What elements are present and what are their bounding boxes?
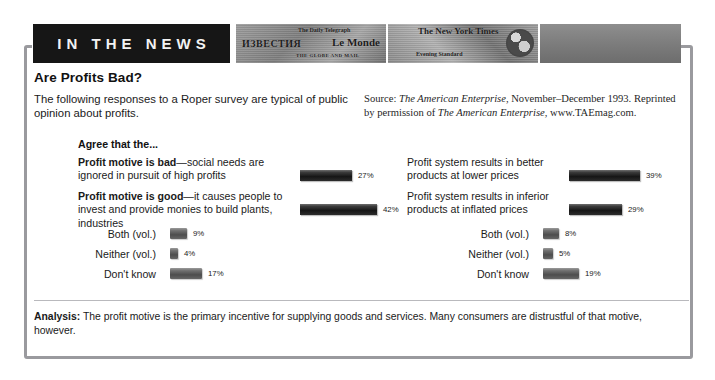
chart-bar-value: 17% [208, 269, 224, 278]
chart-bar [300, 170, 352, 181]
globe-icon [506, 29, 534, 57]
chart-row: Both (vol.) 8% [451, 226, 715, 242]
chart-bar [170, 268, 202, 279]
newspaper-collage-image-b: The New York Times Evening Standard [388, 24, 538, 63]
chart-bar [543, 248, 553, 259]
chart-row: Profit motive is good—it causes people t… [78, 190, 408, 224]
chart-row: Don't know 17% [78, 266, 408, 282]
chart-bar-value: 5% [559, 249, 570, 258]
source-prefix: Source: [364, 93, 399, 104]
chart-row-label: Profit system results in inferior produc… [407, 190, 567, 217]
newspaper-collage-image-a: ИЗВЕСТИЯ The Daily Telegraph Le Monde TH… [236, 24, 386, 63]
chart-bar-value: 29% [628, 205, 644, 214]
analysis-paragraph: Analysis: The profit motive is the prima… [34, 310, 686, 337]
analysis-divider [34, 300, 689, 301]
source-publication-2: The American Enterprise [438, 107, 545, 118]
chart-row: Neither (vol.) 4% [78, 246, 408, 262]
chart-bar-group: 29% [569, 204, 644, 215]
chart-other-responses-left: Both (vol.) 9% Neither (vol.) 4% Don't k… [78, 226, 408, 286]
chart-bar [543, 268, 579, 279]
chart-row-label: Both (vol.) [451, 228, 543, 240]
chart-bar-group: 27% [300, 170, 374, 181]
chart-row: Profit system results in inferior produc… [407, 190, 692, 224]
source-citation: Source: The American Enterprise, Novembe… [364, 92, 680, 120]
chart-row: Both (vol.) 9% [78, 226, 408, 242]
chart-bar-value: 8% [565, 229, 576, 238]
chart-bar-value: 42% [383, 205, 399, 214]
chart-bar-value: 19% [585, 269, 601, 278]
chart-row-label: Don't know [451, 268, 543, 280]
analysis-text: The profit motive is the primary incenti… [34, 311, 642, 336]
chart-bar-value: 39% [646, 171, 662, 180]
analysis-label: Analysis: [34, 311, 80, 322]
chart-bar [170, 228, 187, 239]
chart-row: Neither (vol.) 5% [451, 246, 715, 262]
chart-row-label-rest: Profit system results in inferior produc… [407, 190, 549, 216]
chart-bar [300, 204, 377, 215]
banner-title: IN THE NEWS [52, 35, 210, 52]
chart-bar [569, 204, 622, 215]
masthead-daily-telegraph: The Daily Telegraph [298, 27, 350, 33]
chart-row: Profit system results in better products… [407, 156, 692, 190]
masthead-new-york-times: The New York Times [418, 26, 499, 36]
chart-other-responses-right: Both (vol.) 8% Neither (vol.) 5% Don't k… [451, 226, 715, 286]
article-content: Are Profits Bad? The following responses… [34, 70, 690, 268]
banner-row: IN THE NEWS ИЗВЕСТИЯ The Daily Telegraph… [33, 24, 681, 63]
banner-gray-block [540, 24, 681, 63]
survey-chart: Agree that the... Profit motive is bad—s… [34, 138, 690, 268]
masthead-evening-standard: Evening Standard [416, 51, 463, 57]
chart-row-label-bold: Profit motive is bad [78, 156, 176, 168]
in-the-news-banner: IN THE NEWS [33, 24, 230, 63]
chart-row-label: Profit motive is good—it causes people t… [78, 190, 300, 231]
source-publication-1: The American Enterprise [399, 93, 506, 104]
chart-row-label-bold: Profit motive is good [78, 190, 183, 202]
chart-row-label: Profit system results in better products… [407, 156, 567, 183]
chart-bar [170, 248, 178, 259]
masthead-izvestia: ИЗВЕСТИЯ [242, 38, 301, 49]
chart-bar-group: 39% [569, 170, 662, 181]
chart-bar-value: 4% [184, 249, 195, 258]
chart-row-label: Both (vol.) [78, 228, 170, 240]
chart-row-label: Profit motive is bad—social needs are ig… [78, 156, 300, 183]
page-title: Are Profits Bad? [34, 70, 690, 85]
chart-bar [543, 228, 559, 239]
chart-bar [569, 170, 640, 181]
chart-column-right: Profit system results in better products… [407, 156, 692, 224]
chart-bar-value: 9% [193, 229, 204, 238]
intro-and-source-row: The following responses to a Roper surve… [34, 92, 690, 121]
masthead-le-monde: Le Monde [332, 36, 380, 48]
chart-bar-group: 42% [300, 204, 399, 215]
chart-row-label: Neither (vol.) [78, 248, 170, 260]
chart-row-label: Don't know [78, 268, 170, 280]
source-suffix: , www.TAEmag.com. [545, 107, 637, 118]
chart-row-label-rest: Profit system results in better products… [407, 156, 544, 182]
chart-column-left: Profit motive is bad—social needs are ig… [78, 156, 408, 224]
masthead-globe-and-mail: THE GLOBE AND MAIL [296, 53, 359, 58]
chart-row: Don't know 19% [451, 266, 715, 282]
chart-bar-value: 27% [358, 171, 374, 180]
chart-subtitle: Agree that the... [78, 138, 158, 150]
chart-row: Profit motive is bad—social needs are ig… [78, 156, 408, 190]
chart-row-label: Neither (vol.) [451, 248, 543, 260]
intro-text: The following responses to a Roper surve… [34, 92, 364, 121]
